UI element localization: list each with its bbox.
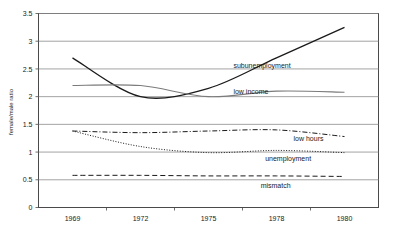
y-axis-tick-label: 0 xyxy=(29,204,33,211)
y-axis-tick-label: 0.5 xyxy=(23,176,33,183)
x-axis-tick-label: 1972 xyxy=(133,215,149,222)
chart-figure: 00.511.522.533.5 19691972197519781980 su… xyxy=(0,0,394,238)
y-axis-tick-label: 2 xyxy=(29,93,33,100)
y-axis-tick-label: 1.5 xyxy=(23,121,33,128)
y-axis-tick-label: 1 xyxy=(29,149,33,156)
line-chart: 00.511.522.533.5 19691972197519781980 su… xyxy=(0,0,394,238)
x-axis-tick-label: 1969 xyxy=(65,215,81,222)
series-label-low-hours: low hours xyxy=(294,135,324,142)
x-axis-tick-label: 1975 xyxy=(201,215,217,222)
x-axis-tick-label: 1978 xyxy=(269,215,285,222)
series-label-mismatch: mismatch xyxy=(261,182,291,189)
chart-background xyxy=(0,0,394,238)
series-label-unemployment: unemployment xyxy=(265,155,311,163)
y-axis-tick-label: 2.5 xyxy=(23,66,33,73)
y-axis-tick-label: 3 xyxy=(29,38,33,45)
y-axis-tick-label: 3.5 xyxy=(23,10,33,17)
x-axis-tick-label: 1980 xyxy=(337,215,353,222)
series-label-subunemployment: subunemployment xyxy=(233,62,290,70)
y-axis-title: female/male ratio xyxy=(8,88,14,135)
series-label-low-income: low income xyxy=(233,88,268,95)
